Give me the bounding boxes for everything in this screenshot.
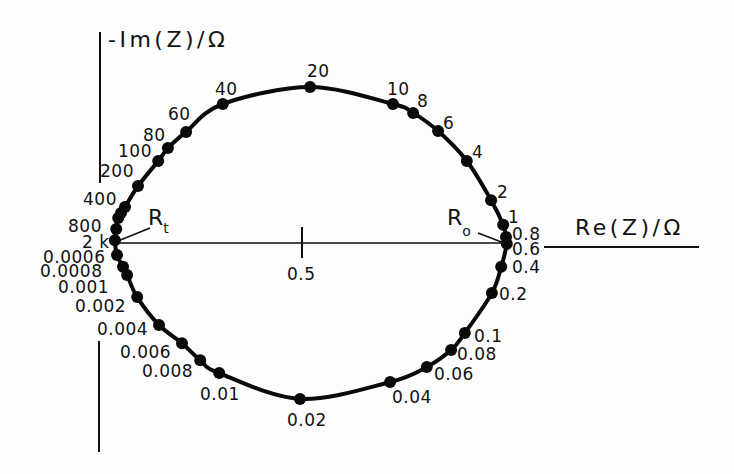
point-label: 0.006 [120, 342, 171, 362]
ro-leader-line [478, 233, 504, 243]
point-label: 20 [307, 61, 330, 81]
point-label: 0.6 [512, 239, 541, 259]
point-label: 0.04 [392, 387, 432, 407]
data-point [445, 344, 457, 356]
ro-main: R [447, 205, 462, 230]
point-label: 6 [443, 113, 454, 133]
data-point [213, 367, 225, 379]
rt-leader-line [118, 228, 150, 241]
point-label: 60 [168, 104, 191, 124]
point-label: 0.4 [512, 257, 541, 277]
point-label: 4 [472, 142, 483, 162]
y-axis-title: -Im(Z)/Ω [108, 27, 228, 52]
point-label: 800 [68, 216, 102, 236]
data-point [217, 98, 229, 110]
point-label: 0.08 [457, 344, 497, 364]
data-point [486, 287, 498, 299]
data-point [153, 319, 165, 331]
data-point [131, 291, 143, 303]
data-point [119, 201, 131, 213]
data-point [180, 126, 192, 138]
point-label: 0.02 [287, 410, 327, 430]
point-label: 2 [497, 182, 508, 202]
point-label: 0.008 [142, 361, 193, 381]
point-label: 0.002 [75, 296, 126, 316]
data-point [485, 194, 497, 206]
data-point [387, 98, 399, 110]
point-label: 400 [83, 189, 117, 209]
rt-annotation: Rt [148, 205, 169, 236]
data-point [459, 327, 471, 339]
ro-sub: o [462, 223, 471, 239]
point-label: 40 [215, 79, 238, 99]
data-point [294, 393, 306, 405]
rt-main: R [148, 205, 163, 230]
point-label: 80 [143, 125, 166, 145]
data-point [110, 223, 122, 235]
x-axis-title: Re(Z)/Ω [575, 215, 684, 240]
data-point [152, 155, 164, 167]
data-point [495, 261, 507, 273]
rt-sub: t [163, 220, 169, 236]
data-point [132, 180, 144, 192]
nyquist-plot: 0.5 -Im(Z)/Ω Re(Z)/Ω 2 k8004002001008060… [0, 0, 734, 474]
point-label: 200 [100, 161, 134, 181]
data-point [461, 155, 473, 167]
point-label: 0.1 [474, 326, 503, 346]
point-label: 0.06 [434, 364, 474, 384]
point-label: 0.01 [200, 384, 240, 404]
point-label: 0.004 [97, 319, 148, 339]
data-point [501, 238, 513, 250]
data-point [111, 249, 123, 261]
point-label: 0.2 [499, 284, 528, 304]
data-point [304, 81, 316, 93]
x-tick-label: 0.5 [287, 264, 316, 284]
data-point [421, 361, 433, 373]
point-label: 8 [417, 91, 428, 111]
data-point [194, 354, 206, 366]
data-point [117, 261, 129, 273]
data-point [176, 337, 188, 349]
point-label: 0.0006 [43, 247, 105, 267]
ro-annotation: Ro [447, 205, 471, 239]
point-label: 10 [387, 79, 410, 99]
